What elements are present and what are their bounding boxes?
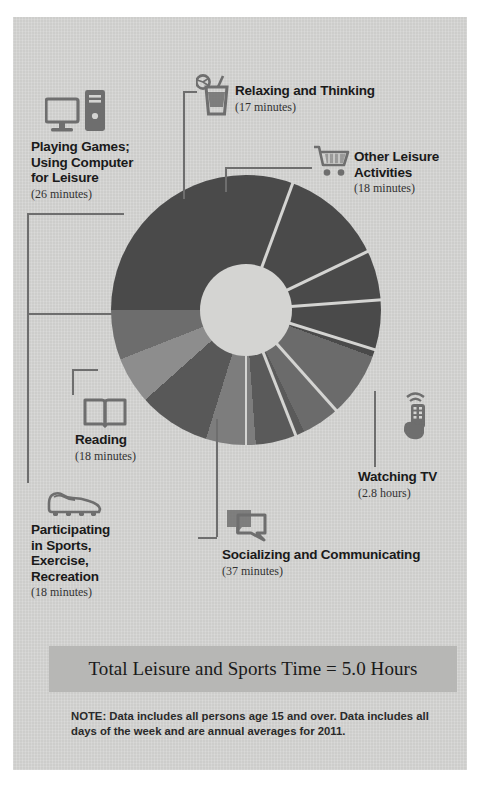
infographic-canvas: Playing Games; Using Computer for Leisur… — [0, 0, 480, 787]
leader-other-leisure-h — [225, 167, 312, 169]
callout-relaxing-title: Relaxing and Thinking — [235, 83, 435, 99]
callout-other-leisure-title: Other Leisure Activities — [354, 149, 467, 180]
callout-watching-tv: Watching TV (2.8 hours) — [358, 469, 467, 500]
cleat-shoe-icon — [46, 483, 102, 517]
donut-center-hole — [200, 264, 292, 356]
leader-reading-v — [72, 369, 74, 395]
callout-socializing-value: (37 minutes) — [222, 564, 467, 578]
callout-other-leisure-value: (18 minutes) — [354, 181, 467, 195]
computer-icon — [45, 89, 107, 137]
open-book-icon — [83, 397, 127, 429]
callout-socializing: Socializing and Communicating (37 minute… — [222, 547, 467, 578]
callout-playing-games: Playing Games; Using Computer for Leisur… — [31, 139, 191, 201]
leader-socializing-v — [216, 419, 218, 537]
callout-watching-tv-title: Watching TV — [358, 469, 467, 485]
callout-sports-value: (18 minutes) — [31, 585, 191, 599]
leader-reading-h2 — [72, 369, 98, 371]
callout-socializing-title: Socializing and Communicating — [222, 547, 467, 563]
callout-watching-tv-value: (2.8 hours) — [358, 486, 467, 500]
leader-sports-v — [27, 213, 29, 483]
total-time-banner: Total Leisure and Sports Time = 5.0 Hour… — [49, 646, 457, 692]
callout-reading-title: Reading — [75, 432, 215, 448]
callout-sports: Participating in Sports, Exercise, Recre… — [31, 522, 191, 599]
leader-playing-games-h — [27, 213, 124, 215]
shopping-cart-icon — [313, 145, 351, 177]
callout-playing-games-value: (26 minutes) — [31, 187, 191, 201]
callout-relaxing-value: (17 minutes) — [235, 100, 435, 114]
speech-bubble-icon — [225, 508, 269, 542]
source-note: NOTE: Data includes all persons age 15 a… — [71, 709, 441, 739]
leader-reading-h — [27, 313, 114, 315]
callout-playing-games-title: Playing Games; Using Computer for Leisur… — [31, 139, 191, 186]
callout-other-leisure: Other Leisure Activities (18 minutes) — [354, 149, 467, 195]
callout-sports-title: Participating in Sports, Exercise, Recre… — [31, 522, 191, 584]
callout-reading-value: (18 minutes) — [75, 449, 215, 463]
leader-relaxing-h — [183, 91, 197, 93]
leader-socializing-h — [198, 537, 217, 539]
leader-other-leisure-v — [225, 167, 227, 192]
infographic-panel: Playing Games; Using Computer for Leisur… — [13, 17, 467, 770]
donut-chart — [111, 175, 381, 445]
drink-icon — [196, 74, 230, 116]
remote-control-icon — [399, 388, 435, 440]
callout-relaxing: Relaxing and Thinking (17 minutes) — [235, 83, 435, 114]
leader-watching-tv-v — [374, 391, 376, 467]
total-time-text: Total Leisure and Sports Time = 5.0 Hour… — [88, 658, 417, 680]
callout-reading: Reading (18 minutes) — [75, 432, 215, 463]
